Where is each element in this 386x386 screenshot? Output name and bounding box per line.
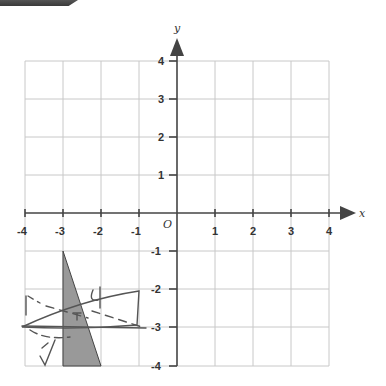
svg-text:-2: -2 [93, 225, 103, 237]
y-axis-label: y [173, 22, 181, 35]
svg-text:-4: -4 [17, 225, 28, 237]
svg-text:-1: -1 [151, 245, 161, 257]
svg-text:1: 1 [158, 169, 164, 181]
svg-text:2: 2 [250, 225, 256, 237]
svg-text:2: 2 [158, 131, 164, 143]
svg-text:3: 3 [158, 93, 164, 105]
svg-text:-4: -4 [151, 360, 162, 372]
svg-text:4: 4 [158, 55, 165, 67]
svg-text:-1: -1 [131, 225, 141, 237]
svg-text:-2: -2 [151, 283, 161, 295]
x-axis-arrow-icon [340, 206, 356, 220]
svg-text:1: 1 [212, 225, 218, 237]
svg-text:3: 3 [288, 225, 294, 237]
origin-label: O [163, 218, 172, 231]
svg-text:-3: -3 [151, 321, 161, 333]
coordinate-grid: x y O -4 -3 -2 -1 1 2 3 4 4 3 2 1 -1 -2 … [0, 0, 386, 386]
x-tick-labels: -4 -3 -2 -1 1 2 3 4 [17, 225, 333, 237]
svg-text:-3: -3 [55, 225, 65, 237]
svg-text:4: 4 [326, 225, 333, 237]
y-axis-arrow-icon [170, 38, 184, 56]
x-axis-label: x [359, 207, 366, 220]
